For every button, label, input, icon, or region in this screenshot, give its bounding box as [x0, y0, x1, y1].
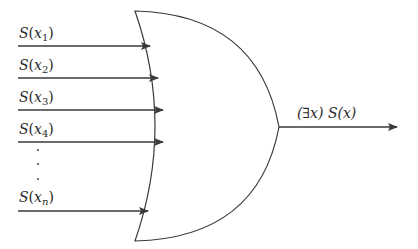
input-label-2: S(x2)	[19, 58, 54, 72]
ellipsis-dot-2	[37, 163, 39, 165]
or-gate-body	[135, 11, 279, 241]
var-name: x	[34, 25, 42, 41]
var-name: x	[34, 57, 42, 73]
func-name: S	[19, 25, 29, 41]
func-name: S	[19, 121, 29, 137]
input-label-1: S(x1)	[19, 26, 54, 40]
input-label-3: S(x3)	[19, 90, 54, 104]
input-label-4: S(x4)	[19, 122, 54, 136]
var-name: x	[34, 189, 42, 205]
subscript: 3	[42, 96, 48, 107]
input-label-n: S(xn)	[19, 190, 54, 204]
subscript: 1	[42, 32, 48, 43]
func-name: S	[19, 57, 29, 73]
output-expression: S(x)	[328, 105, 356, 121]
ellipsis-dot-1	[37, 149, 39, 151]
output-label: (∃x) S(x)	[297, 106, 356, 120]
func-name: S	[19, 189, 29, 205]
var-name: x	[34, 89, 42, 105]
subscript: 2	[42, 64, 48, 75]
func-name: S	[19, 89, 29, 105]
or-gate-diagram	[0, 0, 418, 249]
ellipsis-dot-3	[37, 178, 39, 180]
subscript: n	[42, 196, 48, 207]
var-name: x	[34, 121, 42, 137]
quantifier: (∃x)	[297, 105, 323, 121]
subscript: 4	[42, 128, 48, 139]
